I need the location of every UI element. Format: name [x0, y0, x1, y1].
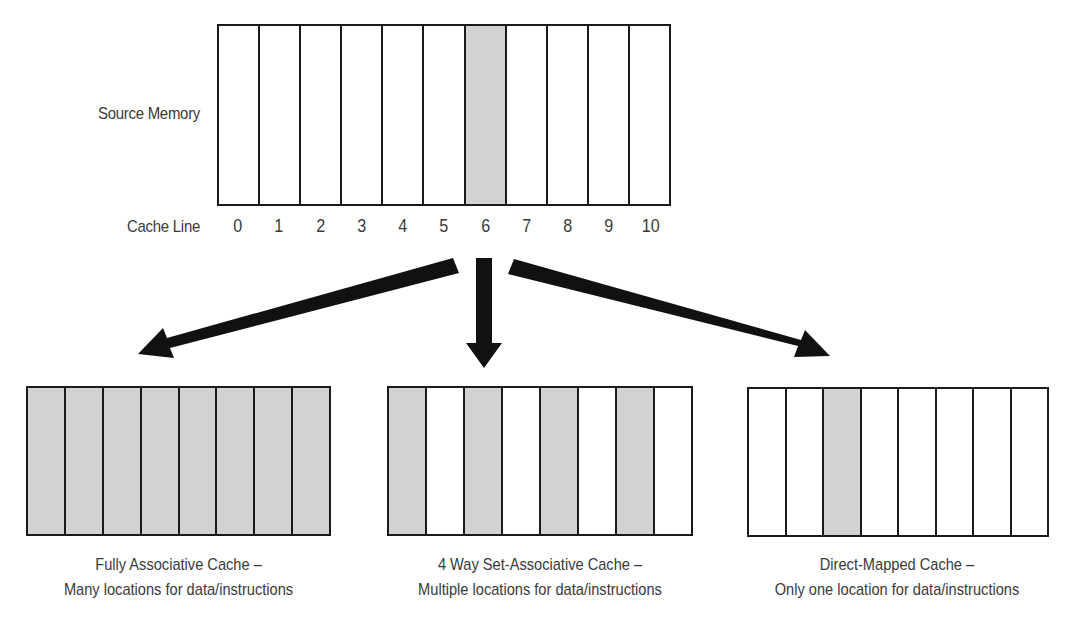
arrow-to-fully-associative-icon — [138, 258, 459, 358]
caption-subtitle: Only one location for data/instructions — [747, 577, 1048, 602]
caption-subtitle: Multiple locations for data/instructions — [385, 577, 695, 602]
caption-title: 4 Way Set-Associative Cache – — [385, 552, 695, 577]
cache-slot — [579, 388, 617, 534]
caption-title: Fully Associative Cache – — [30, 552, 327, 577]
cache-slot — [937, 389, 975, 535]
caption-subtitle: Many locations for data/instructions — [30, 577, 327, 602]
cache-slot — [66, 388, 104, 534]
cache-slot — [389, 388, 427, 534]
fully-associative-cache-block — [26, 386, 331, 536]
set-associative-caption: 4 Way Set-Associative Cache – Multiple l… — [360, 552, 720, 602]
cache-slot — [655, 388, 691, 534]
arrow-to-direct-mapped-icon — [508, 259, 830, 357]
cache-slot — [1012, 389, 1048, 535]
set-associative-cache-block — [387, 386, 693, 536]
cache-slot — [541, 388, 579, 534]
cache-slot — [293, 388, 329, 534]
direct-mapped-caption: Direct-Mapped Cache – Only one location … — [722, 552, 1072, 602]
caption-title: Direct-Mapped Cache – — [747, 552, 1048, 577]
cache-slot — [862, 389, 900, 535]
cache-slot — [824, 389, 862, 535]
cache-slot — [749, 389, 787, 535]
cache-slot — [617, 388, 655, 534]
direct-mapped-cache-block — [747, 387, 1049, 537]
cache-slot — [899, 389, 937, 535]
cache-slot — [180, 388, 218, 534]
cache-slot — [787, 389, 825, 535]
cache-slot — [427, 388, 465, 534]
cache-slot — [465, 388, 503, 534]
cache-slot — [104, 388, 142, 534]
cache-slot — [255, 388, 293, 534]
cache-slot — [217, 388, 255, 534]
fully-associative-caption: Fully Associative Cache – Many locations… — [6, 552, 351, 602]
cache-slot — [974, 389, 1012, 535]
cache-slot — [142, 388, 180, 534]
cache-slot — [503, 388, 541, 534]
cache-slot — [28, 388, 66, 534]
arrow-to-set-associative-icon — [466, 258, 502, 368]
